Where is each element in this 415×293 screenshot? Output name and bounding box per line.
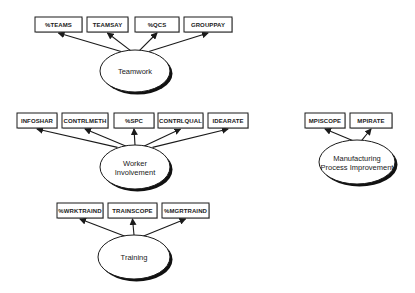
indicator-label: MPIRATE xyxy=(357,118,384,124)
factor-teamwork: Teamwork xyxy=(100,50,173,95)
indicator-label: GROUPPAY xyxy=(191,22,225,28)
indicator-mpiscope: MPISCOPE xyxy=(305,113,346,129)
indicator-label: TEAMSAY xyxy=(93,22,122,28)
loading-arrow xyxy=(108,33,131,51)
indicator-contrlqual: CONTRLQUAL xyxy=(158,113,204,129)
indicator-label: CONTRLMETH xyxy=(64,118,107,124)
indicator-trainscope: TRAINSCOPE xyxy=(108,203,158,219)
factor-label: Teamwork xyxy=(118,67,152,76)
loading-arrow xyxy=(143,219,186,236)
loading-arrow xyxy=(134,129,135,145)
loading-arrow xyxy=(133,219,135,235)
indicator-pct-wrktraind: %WRKTRAIND xyxy=(57,203,104,219)
factor-label: Involvement xyxy=(115,168,156,177)
indicator-label: %TEAMS xyxy=(45,22,72,28)
indicator-label: CONTRLQUAL xyxy=(159,118,202,124)
indicator-label: %WRKTRAIND xyxy=(58,208,102,214)
loading-arrow xyxy=(139,33,157,51)
loading-arrow xyxy=(80,219,125,236)
indicator-label: %SPC xyxy=(125,118,144,124)
factor-label: Process Improvement xyxy=(321,163,395,172)
factors-layer: TeamworkWorkerInvolvementTrainingManufac… xyxy=(98,50,398,282)
indicator-idearate: IDEARATE xyxy=(208,113,249,129)
indicator-label: MPISCOPE xyxy=(309,118,341,124)
indicator-label: INFOSHAR xyxy=(21,118,54,124)
indicator-label: %MGRTRAIND xyxy=(164,208,208,214)
factor-label: Worker xyxy=(123,159,148,168)
factor-label: Manufacturing xyxy=(333,154,381,163)
indicator-grouppay: GROUPPAY xyxy=(184,17,233,33)
loading-arrow xyxy=(148,33,208,52)
indicators-layer: %TEAMSTEAMSAY%QCSGROUPPAYINFOSHARCONTRLM… xyxy=(17,17,393,219)
indicator-label: %QCS xyxy=(148,22,167,28)
indicator-contrlmeth: CONTRLMETH xyxy=(62,113,109,129)
factor-worker-involvement: WorkerInvolvement xyxy=(100,145,173,192)
indicator-pct-spc: %SPC xyxy=(114,113,155,129)
measurement-model-diagram: TeamworkWorkerInvolvementTrainingManufac… xyxy=(0,0,415,293)
loading-arrow xyxy=(59,33,122,52)
loading-arrow xyxy=(37,129,118,147)
loading-arrow xyxy=(153,129,229,147)
loading-arrow xyxy=(85,129,126,146)
indicator-label: IDEARATE xyxy=(212,118,243,124)
loading-arrow xyxy=(325,129,353,141)
indicator-pct-teams: %TEAMS xyxy=(35,17,83,33)
factor-label: Training xyxy=(121,253,148,262)
indicator-pct-mgrtraind: %MGRTRAIND xyxy=(162,203,210,219)
indicator-teamsay: TEAMSAY xyxy=(87,17,129,33)
indicator-mpirate: MPIRATE xyxy=(350,113,393,129)
loading-arrow xyxy=(362,129,372,141)
indicator-label: TRAINSCOPE xyxy=(112,208,152,214)
factor-manufacturing-process-improvement: ManufacturingProcess Improvement xyxy=(319,140,398,187)
factor-training: Training xyxy=(98,235,173,282)
indicator-pct-qcs: %QCS xyxy=(135,17,180,33)
loading-arrow xyxy=(144,129,181,146)
indicator-infoshar: INFOSHAR xyxy=(17,113,58,129)
